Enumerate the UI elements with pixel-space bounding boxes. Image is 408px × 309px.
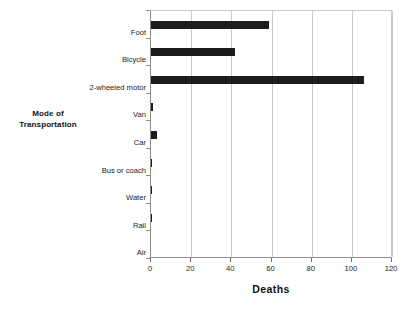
bar (151, 214, 152, 222)
bar-chart: Mode of Transportation FootBicycle2-whee… (0, 0, 408, 309)
x-axis-tick-mark (311, 258, 312, 262)
y-axis-category-label: Water (58, 193, 146, 202)
x-axis-tick-label: 0 (148, 264, 152, 273)
y-axis-category-label: Rail (58, 221, 146, 230)
bar (151, 159, 152, 167)
x-axis-tick-mark (190, 258, 191, 262)
bar (151, 48, 235, 56)
bar (151, 21, 269, 29)
gridline (352, 11, 353, 257)
x-axis-tick-label: 60 (266, 264, 274, 273)
y-axis-category-label: Bicycle (58, 55, 146, 64)
y-axis-category-label: Car (58, 138, 146, 147)
y-axis-category-label: Air (58, 248, 146, 257)
x-axis-tick-mark (150, 258, 151, 262)
gridline (312, 11, 313, 257)
y-axis-category-label: Foot (58, 28, 146, 37)
y-axis-category-label: Bus or coach (58, 166, 146, 175)
y-axis-category-label: Van (58, 110, 146, 119)
x-axis-tick-label: 100 (344, 264, 357, 273)
x-axis-tick-label: 120 (385, 264, 398, 273)
gridline (392, 11, 393, 257)
y-axis-category-labels: FootBicycle2-wheeled motorVanCarBus or c… (58, 10, 146, 258)
bar (151, 131, 157, 139)
x-axis-tick-mark (391, 258, 392, 262)
x-axis-tick-mark (351, 258, 352, 262)
x-axis-tick-label: 20 (186, 264, 194, 273)
gridline (272, 11, 273, 257)
plot-area (150, 10, 392, 258)
x-axis-tick-label: 40 (226, 264, 234, 273)
bar (151, 103, 153, 111)
x-axis-tick-mark (271, 258, 272, 262)
x-axis-tick-mark (230, 258, 231, 262)
y-axis-category-label: 2-wheeled motor (58, 83, 146, 92)
bar (151, 186, 152, 194)
bar (151, 76, 364, 84)
x-axis-title: Deaths (150, 283, 392, 295)
x-axis-tick-label: 80 (306, 264, 314, 273)
x-axis-ticks: 020406080100120 (150, 258, 392, 282)
